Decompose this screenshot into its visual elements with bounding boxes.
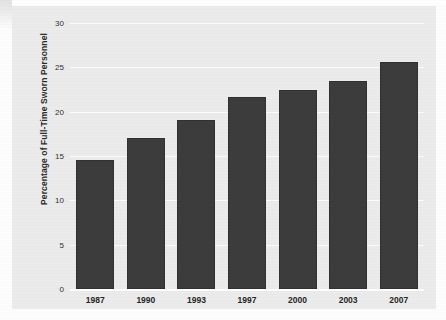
x-axis-tick-label: 1997 [222, 295, 273, 305]
y-axis-title: Percentage of Full-Time Sworn Personnel [39, 24, 49, 214]
bar-group: 2003 [323, 23, 374, 289]
x-axis-tick-label: 1993 [171, 295, 222, 305]
bar-1997 [228, 97, 266, 289]
y-axis-tick-label: 25 [55, 63, 64, 72]
x-axis-tick-label: 2000 [272, 295, 323, 305]
bar-chart-figure: Percentage of Full-Time Sworn Personnel … [12, 6, 436, 309]
bar-group: 2007 [373, 23, 424, 289]
plot-area: 051015202530 198719901993199720002003200… [70, 23, 424, 289]
scanned-page: Percentage of Full-Time Sworn Personnel … [0, 0, 446, 320]
y-axis-tick-label: 0 [60, 285, 64, 294]
bar-1990 [127, 138, 165, 289]
bar-group: 1997 [222, 23, 273, 289]
bar-1987 [76, 160, 114, 289]
bars-group: 1987199019931997200020032007 [70, 23, 424, 289]
scan-top-margin [0, 0, 446, 5]
y-axis-tick-label: 10 [55, 196, 64, 205]
y-axis-tick-label: 5 [60, 240, 64, 249]
bar-group: 1987 [70, 23, 121, 289]
x-axis-tick-label: 1990 [121, 295, 172, 305]
bar-group: 2000 [272, 23, 323, 289]
scan-edge-artifact [0, 0, 12, 30]
bar-1993 [177, 120, 215, 289]
gridline-0: 0 [70, 289, 424, 291]
y-axis-tick-label: 15 [55, 152, 64, 161]
x-axis-tick-label: 2007 [373, 295, 424, 305]
y-axis-tick-label: 30 [55, 19, 64, 28]
y-axis-tick-label: 20 [55, 107, 64, 116]
bar-2003 [329, 81, 367, 289]
x-axis-tick-label: 2003 [323, 295, 374, 305]
bar-2007 [380, 62, 418, 289]
bar-group: 1993 [171, 23, 222, 289]
bar-group: 1990 [121, 23, 172, 289]
x-axis-tick-label: 1987 [70, 295, 121, 305]
bar-2000 [279, 90, 317, 290]
